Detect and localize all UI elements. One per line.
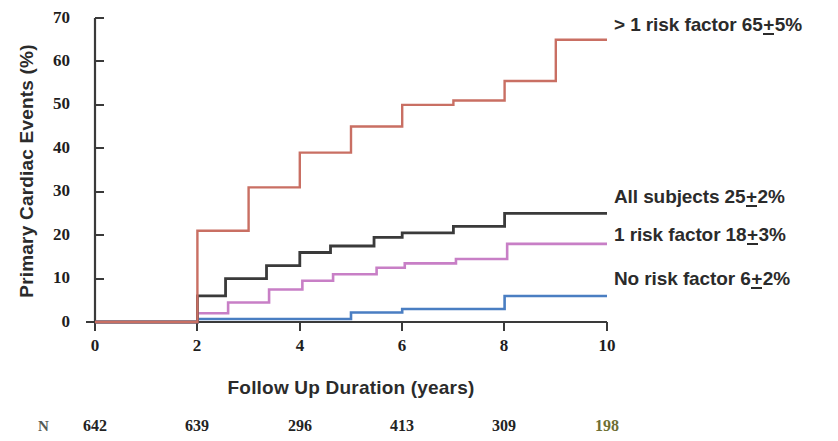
at-risk-value-8: 309 (474, 417, 534, 435)
at-risk-row-label: N (38, 418, 49, 435)
x-tick-10: 10 (587, 336, 627, 356)
series-label-no-risk: No risk factor 6+2% (614, 268, 790, 290)
x-tick-4: 4 (280, 336, 320, 356)
at-risk-value-2: 639 (167, 417, 227, 435)
x-tick-0: 0 (75, 336, 115, 356)
plus-minus-icon: + (747, 224, 759, 246)
series-label-one-risk-suffix: 3% (759, 224, 786, 245)
x-tick-8: 8 (484, 336, 524, 356)
axis-lines (95, 18, 607, 322)
curve-all-subjects (95, 213, 607, 322)
curve-one-risk (95, 244, 607, 322)
plot-area (0, 0, 838, 441)
at-risk-value-4: 296 (270, 417, 330, 435)
at-risk-value-6: 413 (372, 417, 432, 435)
curve-no-risk (95, 296, 607, 322)
series-label-gt1-risk-prefix: > 1 risk factor 65 (614, 14, 763, 35)
series-label-gt1-risk-suffix: 5% (775, 14, 802, 35)
series-label-one-risk-prefix: 1 risk factor 18 (614, 224, 747, 245)
series-curves (95, 40, 607, 322)
x-axis-title: Follow Up Duration (years) (95, 377, 607, 399)
chart-figure: Primary Cardiac Events (%) 70 60 50 40 3… (0, 0, 838, 441)
series-label-no-risk-suffix: 2% (763, 268, 790, 289)
x-tick-2: 2 (177, 336, 217, 356)
plus-minus-icon: + (751, 268, 763, 290)
at-risk-value-0: 642 (65, 417, 125, 435)
series-label-no-risk-prefix: No risk factor 6 (614, 268, 751, 289)
series-label-all-subjects: All subjects 25+2% (614, 186, 785, 208)
plus-minus-icon: + (746, 186, 758, 208)
plus-minus-icon: + (763, 14, 775, 36)
at-risk-value-10: 198 (577, 417, 637, 435)
curve-gt1-risk (95, 40, 607, 322)
series-label-all-subjects-suffix: 2% (758, 186, 785, 207)
x-tick-6: 6 (382, 336, 422, 356)
series-label-all-subjects-prefix: All subjects 25 (614, 186, 746, 207)
series-label-gt1-risk: > 1 risk factor 65+5% (614, 14, 802, 36)
series-label-one-risk: 1 risk factor 18+3% (614, 224, 786, 246)
